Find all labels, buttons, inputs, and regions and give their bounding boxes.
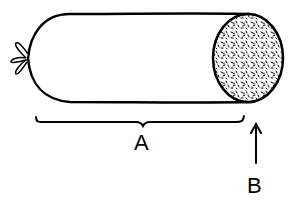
length-brace — [36, 116, 244, 126]
cut-end-face — [213, 14, 283, 102]
label-b: B — [247, 173, 262, 198]
label-a: A — [134, 130, 149, 155]
tied-end-icon — [11, 43, 28, 74]
arrow-up-icon — [251, 124, 261, 163]
sausage-diagram: A B — [0, 0, 292, 205]
